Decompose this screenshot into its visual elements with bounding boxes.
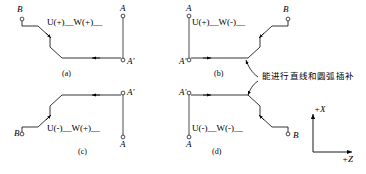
figure-canvas: B A A' U(+)__W(+)__ (a) B A A' U(+)__W(-… <box>0 0 366 174</box>
quadrant-a-label-B: B <box>17 5 23 14</box>
axis-label-x: +X <box>314 105 326 114</box>
quadrant-a-point-B <box>20 17 24 21</box>
quadrant-b-label-A: A <box>186 4 192 13</box>
quadrant-c-caption: (c) <box>78 148 87 156</box>
quadrant-b-point-A <box>187 14 191 18</box>
quadrant-b-point-Aprime <box>187 58 191 62</box>
quadrant-b-label-B: B <box>283 5 289 14</box>
quadrant-a-caption: (a) <box>62 70 71 78</box>
annotation-leaders <box>246 60 258 95</box>
leader-to-quadrant-b <box>246 60 258 77</box>
quadrant-c-label-A: A <box>120 140 126 149</box>
quadrant-c-label-Aprime: A' <box>127 88 134 97</box>
quadrant-b-label-Aprime: A' <box>179 57 186 66</box>
axis-label-z: +Z <box>342 155 353 164</box>
interpolation-note: 能进行直线和圆弧插补 <box>262 72 354 81</box>
quadrant-b-chamfer-arrow <box>259 33 264 38</box>
quadrant-a-chamfer-arrow <box>46 33 51 38</box>
quadrant-d-label-B: B <box>293 131 299 140</box>
quadrant-a-label-Aprime: A' <box>127 57 134 66</box>
quadrant-c-point-Aprime <box>121 91 125 95</box>
quadrant-a-point-A <box>121 14 125 18</box>
quadrant-b-formula: U(+)__W(-)__ <box>192 18 245 27</box>
quadrant-a-point-Aprime <box>121 58 125 62</box>
quadrant-d-chamfer-arrow <box>259 115 264 120</box>
quadrant-c-chamfer-arrow <box>46 115 51 120</box>
quadrant-d-point-B <box>286 132 290 136</box>
quadrant-b-caption: (b) <box>214 70 223 78</box>
quadrant-a-label-A: A <box>120 4 126 13</box>
quadrant-c-point-B <box>20 132 24 136</box>
quadrant-d-point-Aprime <box>187 91 191 95</box>
quadrant-d-caption: (d) <box>212 148 221 156</box>
quadrant-d-label-A: A <box>186 140 192 149</box>
quadrant-c-label-B: B <box>14 129 20 138</box>
quadrant-a-formula: U(+)__W(+)__ <box>47 18 102 27</box>
quadrant-d-formula: U(-)__W(-)__ <box>192 124 243 133</box>
quadrant-c-formula: U(-)__W(+)__ <box>47 124 100 133</box>
quadrant-b-point-B <box>286 17 290 21</box>
coordinate-axes <box>313 114 352 152</box>
quadrant-d-label-Aprime: A' <box>179 88 186 97</box>
leader-to-quadrant-d <box>248 81 258 95</box>
